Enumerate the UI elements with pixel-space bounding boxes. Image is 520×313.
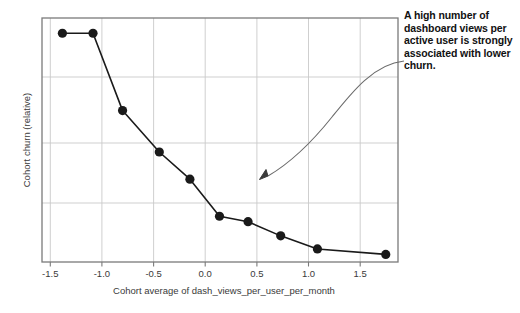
data-point-marker bbox=[88, 29, 97, 38]
data-point-marker bbox=[243, 217, 252, 226]
x-tick-label: 1.5 bbox=[354, 268, 367, 279]
chart-figure: -1.5 -1.0 -0.5 0.0 0.5 1.0 1.5 Cohort av… bbox=[0, 0, 520, 313]
x-tick-label: 1.0 bbox=[302, 268, 315, 279]
x-tick-labels: -1.5 -1.0 -0.5 0.0 0.5 1.0 1.5 bbox=[42, 268, 367, 279]
x-tick-label: -0.5 bbox=[145, 268, 161, 279]
x-tick-label: 0.0 bbox=[199, 268, 212, 279]
x-axis-title: Cohort average of dash_views_per_user_pe… bbox=[113, 285, 335, 296]
data-point-marker bbox=[276, 231, 285, 240]
plot-background bbox=[42, 18, 398, 262]
data-point-marker bbox=[185, 175, 194, 184]
data-point-marker bbox=[155, 147, 164, 156]
x-tick-label: -1.5 bbox=[42, 268, 58, 279]
x-tick-label: 0.5 bbox=[250, 268, 263, 279]
data-point-marker bbox=[381, 250, 390, 259]
annotation-text: A high number of dashboard views per act… bbox=[404, 9, 516, 72]
data-point-marker bbox=[215, 212, 224, 221]
y-axis-title: Cohort churn (relative) bbox=[21, 93, 32, 188]
data-point-marker bbox=[58, 29, 67, 38]
x-tick-marks bbox=[50, 262, 360, 267]
data-point-marker bbox=[313, 244, 322, 253]
x-tick-label: -1.0 bbox=[94, 268, 110, 279]
data-point-marker bbox=[118, 106, 127, 115]
